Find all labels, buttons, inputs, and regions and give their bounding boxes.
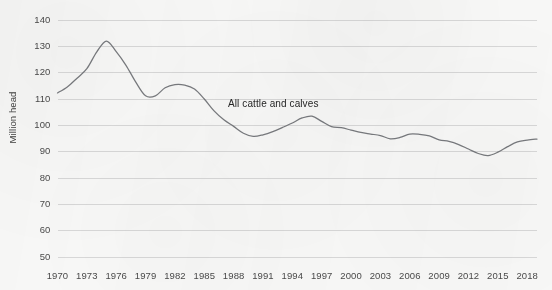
y-tick-label: 140 <box>17 14 51 25</box>
y-tick-label: 80 <box>17 172 51 183</box>
y-tick-label: 100 <box>17 119 51 130</box>
y-tick-label: 60 <box>17 224 51 235</box>
series-annotation-all-cattle-and-calves: All cattle and calves <box>228 98 318 109</box>
y-tick-label: 120 <box>17 66 51 77</box>
chart-page: 1401301201101009080706050 19701973197619… <box>0 0 552 290</box>
x-tick-label: 2018 <box>507 270 547 281</box>
y-axis-title: Million head <box>7 83 18 153</box>
gridlines <box>58 20 538 257</box>
y-tick-label: 50 <box>17 251 51 262</box>
y-tick-label: 130 <box>17 40 51 51</box>
line-chart-plot <box>0 0 552 290</box>
y-tick-label: 90 <box>17 145 51 156</box>
y-tick-label: 70 <box>17 198 51 209</box>
y-tick-label: 110 <box>17 93 51 104</box>
